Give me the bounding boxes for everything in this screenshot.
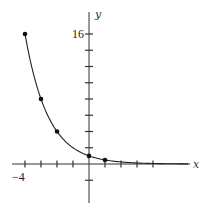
data-point xyxy=(39,97,44,102)
data-point xyxy=(23,32,28,37)
data-point xyxy=(55,129,60,134)
data-point xyxy=(87,154,92,159)
data-points xyxy=(23,32,108,163)
y-axis-label: y xyxy=(94,8,102,21)
exponential-decay-chart: x y −4 16 xyxy=(0,0,205,213)
x-tick-label-minus-4: −4 xyxy=(12,170,25,184)
x-axis-label: x xyxy=(193,158,200,171)
data-point xyxy=(103,158,108,163)
y-tick-label-16: 16 xyxy=(72,27,84,41)
function-curve xyxy=(25,34,188,164)
